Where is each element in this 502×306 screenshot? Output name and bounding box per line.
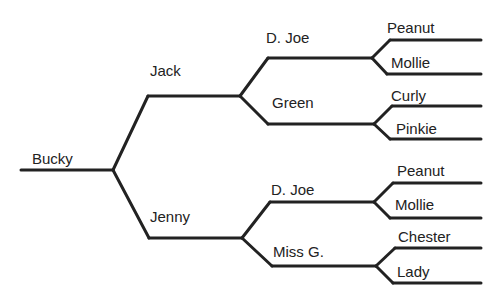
connector-green-curly [374,106,392,124]
node-label-chester: Chester [398,229,451,244]
node-label-pinkie: Pinkie [396,121,437,136]
node-label-lady: Lady [397,264,430,279]
node-label-djoe-1: D. Joe [266,30,309,45]
connector-djoe1-mollie1 [372,58,387,74]
connector-djoe1-peanut1 [372,40,390,58]
connector-bucky-jenny [113,170,149,238]
node-label-jenny: Jenny [150,209,190,224]
connector-jenny-missg [242,238,272,266]
node-label-peanut-2: Peanut [397,163,445,178]
node-label-mollie-1: Mollie [391,55,430,70]
node-label-miss-g: Miss G. [273,244,324,259]
node-label-djoe-2: D. Joe [271,182,314,197]
node-label-peanut-1: Peanut [387,20,435,35]
connector-jack-djoe1 [240,58,268,96]
connector-green-pinkie [374,124,390,139]
node-label-bucky: Bucky [32,151,73,166]
node-label-green: Green [272,95,314,110]
connector-djoe2-peanut2 [374,183,393,202]
connector-jenny-djoe2 [242,202,270,238]
node-label-curly: Curly [391,88,426,103]
connector-missg-lady [376,266,393,283]
node-label-jack: Jack [150,63,181,78]
pedigree-tree [0,0,502,306]
connector-djoe2-mollie2 [374,202,390,218]
connector-jack-green [240,96,268,124]
connector-bucky-jack [113,96,148,170]
connector-missg-chester [376,248,395,266]
node-label-mollie-2: Mollie [395,197,434,212]
